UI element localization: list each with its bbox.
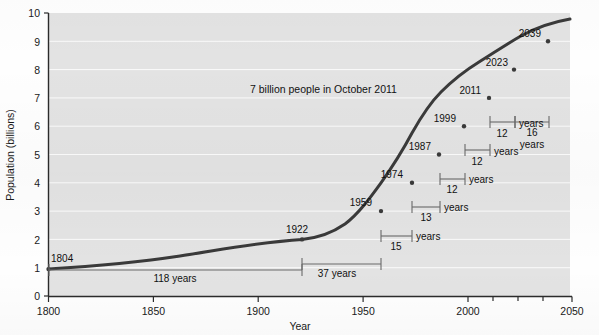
- y-axis-title: Population (billions): [4, 109, 16, 201]
- ytick-label-5: 5: [34, 149, 40, 161]
- xtick-label-2050: 2050: [560, 305, 584, 317]
- bracket-label-16-unit: years: [520, 139, 544, 150]
- bracket-label-12b-value: 12: [471, 156, 483, 167]
- bracket-label-13-unit: years: [444, 202, 468, 213]
- milestone-dot-1974: [410, 181, 414, 185]
- ytick-label-3: 3: [34, 205, 40, 217]
- chart-svg: 10 9 8 7 6 5 4 3 2 1 0 1800 1850 1900 19…: [0, 0, 599, 335]
- bracket-label-37: 37 years: [318, 268, 356, 279]
- xtick-label-1900: 1900: [247, 305, 271, 317]
- xtick-label-2000: 2000: [456, 305, 480, 317]
- ytick-label-2: 2: [34, 234, 40, 246]
- xtick-label-1800: 1800: [37, 305, 61, 317]
- milestone-dot-2039: [546, 39, 550, 43]
- milestone-label-1974: 1974: [381, 169, 404, 180]
- bracket-label-13-value: 13: [420, 212, 432, 223]
- milestone-label-2011: 2011: [459, 85, 481, 96]
- milestone-dot-1959: [379, 209, 383, 213]
- bracket-label-118: 118 years: [153, 273, 196, 284]
- bracket-label-15-unit: years: [416, 231, 440, 242]
- milestone-dot-1999: [462, 124, 466, 128]
- milestone-label-1804: 1804: [51, 253, 74, 264]
- bracket-label-12a-value: 12: [446, 184, 458, 195]
- ytick-label-7: 7: [34, 92, 40, 104]
- milestone-dot-1922: [300, 237, 304, 241]
- ytick-label-9: 9: [34, 36, 40, 48]
- ytick-label-4: 4: [34, 177, 40, 189]
- annotation-7-billion: 7 billion people in October 2011: [250, 83, 397, 95]
- milestone-label-2039: 2039: [519, 28, 542, 39]
- bracket-label-12c-value: 12: [496, 128, 508, 139]
- milestone-dot-2023: [512, 67, 516, 71]
- ytick-label-10: 10: [28, 7, 40, 19]
- bracket-label-15-value: 15: [390, 241, 402, 252]
- ytick-label-1: 1: [34, 262, 40, 274]
- milestone-label-1959: 1959: [350, 197, 373, 208]
- ytick-label-8: 8: [34, 64, 40, 76]
- milestone-label-1922: 1922: [286, 224, 309, 235]
- milestone-dot-2011: [487, 96, 491, 100]
- milestone-label-1987: 1987: [409, 141, 432, 152]
- ytick-label-6: 6: [34, 120, 40, 132]
- ytick-label-0: 0: [34, 290, 40, 302]
- bracket-label-12b-unit: years: [494, 146, 518, 157]
- bracket-label-12a-unit: years: [469, 174, 493, 185]
- milestone-dot-1987: [437, 152, 441, 156]
- xtick-label-1950: 1950: [351, 305, 375, 317]
- xtick-label-1850: 1850: [142, 305, 166, 317]
- x-axis-title: Year: [289, 320, 311, 332]
- x-tick-marks: [49, 297, 573, 303]
- milestone-label-2023: 2023: [486, 57, 509, 68]
- population-growth-chart: 10 9 8 7 6 5 4 3 2 1 0 1800 1850 1900 19…: [0, 0, 599, 335]
- bracket-label-16-value: 16: [526, 127, 538, 138]
- milestone-label-1999: 1999: [434, 113, 457, 124]
